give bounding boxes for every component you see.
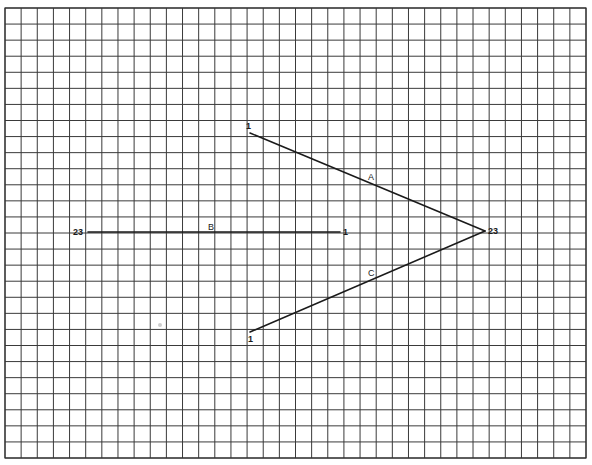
- segment-b-end-label: 23: [73, 227, 83, 237]
- scan-smudge: [158, 323, 162, 327]
- segment-c-label: C: [368, 268, 375, 278]
- graph-paper-diagram: A 1 B 1 23 C 1 23: [0, 0, 592, 465]
- segment-c-start-label: 1: [248, 334, 253, 344]
- segment-a-start-label: 1: [246, 121, 251, 131]
- segment-a-label: A: [368, 172, 374, 182]
- vertex-label: 23: [488, 226, 498, 236]
- segment-b-label: B: [208, 222, 214, 232]
- segment-b-start-label: 1: [343, 227, 348, 237]
